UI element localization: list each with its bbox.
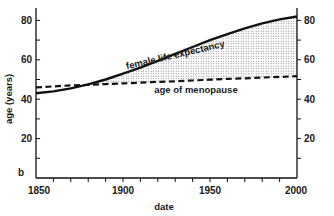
x-axis-label: date: [154, 201, 174, 212]
y-tick-label-right: 20: [304, 133, 316, 144]
y-axis-label: age (years): [3, 74, 14, 124]
y-tick-label-right: 40: [304, 94, 316, 105]
y-tick-label-right: 80: [304, 15, 316, 26]
y-tick-label-left: 40: [21, 94, 33, 105]
y-tick-label-right: 60: [304, 54, 316, 65]
x-tick-label: 2000: [285, 185, 308, 196]
y-tick-label-left: 20: [21, 133, 33, 144]
chart: 20406080204060801850190019502000 age (ye…: [0, 0, 334, 216]
y-tick-label-left: 80: [21, 15, 33, 26]
y-tick-label-left: 60: [21, 54, 33, 65]
x-tick-label: 1850: [28, 185, 51, 196]
panel-label: b: [18, 167, 24, 178]
x-tick-label: 1950: [199, 185, 222, 196]
x-tick-label: 1900: [112, 185, 135, 196]
annotation-age-of-menopause: age of menopause: [154, 84, 237, 95]
